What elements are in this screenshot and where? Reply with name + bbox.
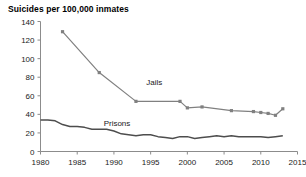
data-point-marker [186,106,189,109]
series-path-jails [63,32,283,116]
data-point-marker [274,114,277,117]
x-tick-label: 1985 [68,158,86,167]
y-tick-label: 40 [26,110,35,119]
data-point-marker [267,112,270,115]
data-point-marker [230,109,233,112]
x-tick-label: 2005 [215,158,233,167]
chart-plot: 020406080100120140 198019851990199520002… [0,0,306,177]
series-jails [61,30,284,117]
data-point-marker [281,107,284,110]
series-prisons [41,120,283,139]
chart-container: Suicides per 100,000 inmates 02040608010… [0,0,306,177]
x-tick-label: 2015 [289,158,306,167]
series-label-jails: Jails [146,78,162,87]
series-path-prisons [41,120,283,139]
y-tick-label: 60 [26,92,35,101]
data-point-marker [200,105,203,108]
y-tick-label: 0 [30,148,35,157]
data-point-marker [252,110,255,113]
x-tick-label: 2000 [178,158,196,167]
x-tick-label: 2010 [252,158,270,167]
data-point-marker [61,30,64,33]
y-axis-tick-labels: 020406080100120140 [21,18,35,157]
y-tick-label: 20 [26,129,35,138]
y-tick-label: 120 [21,36,35,45]
data-point-marker [98,71,101,74]
data-point-marker [134,100,137,103]
x-axis-tick-labels: 19801985199019952000200520102015 [32,158,306,167]
x-tick-label: 1980 [32,158,50,167]
y-tick-label: 80 [26,73,35,82]
x-tick-label: 1990 [105,158,123,167]
x-tick-label: 1995 [142,158,160,167]
y-tick-label: 100 [21,55,35,64]
data-point-marker [178,100,181,103]
data-point-marker [259,111,262,114]
y-tick-label: 140 [21,18,35,27]
series-label-prisons: Prisons [104,119,131,128]
